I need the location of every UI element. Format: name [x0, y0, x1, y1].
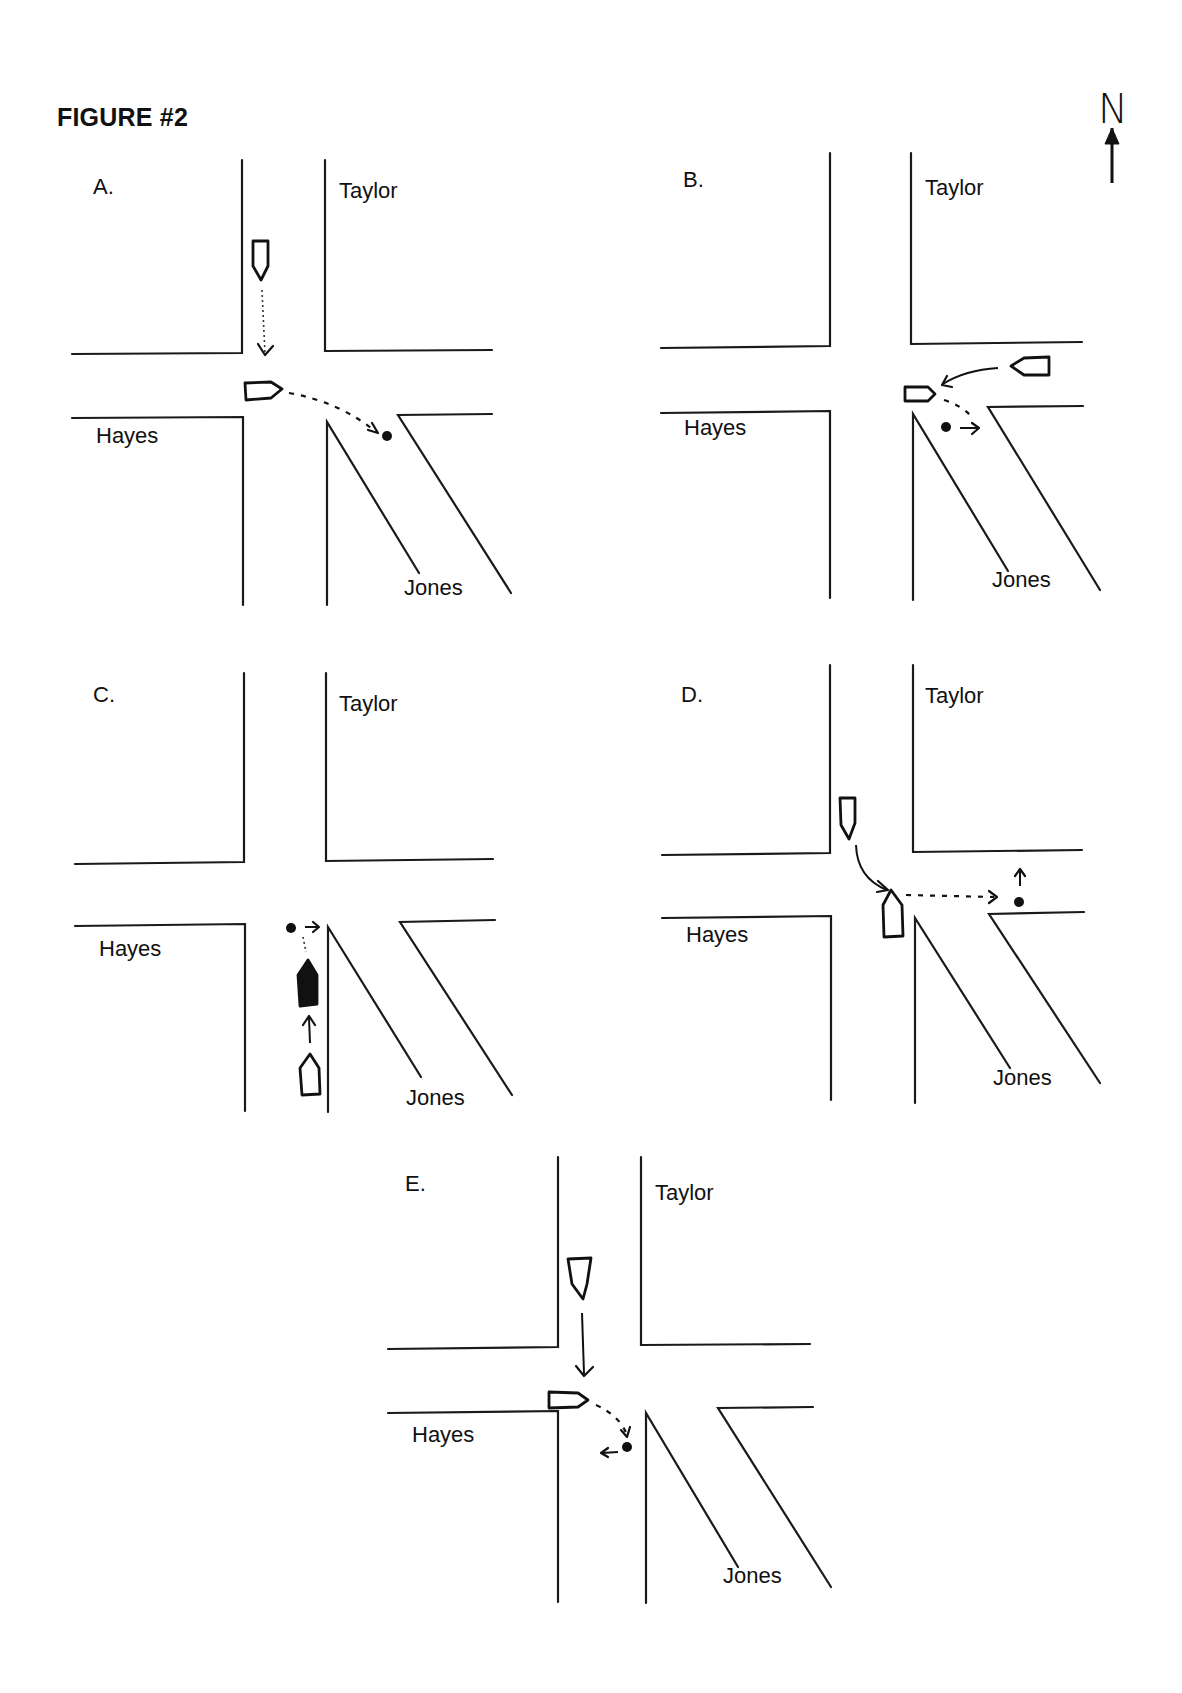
street-label-jones: Jones [404, 575, 463, 600]
vehicle-eastbound-icon [245, 382, 282, 400]
vehicle-eastbound-icon [549, 1392, 588, 1408]
vehicle-northbound-icon [883, 890, 903, 937]
panel-label: D. [681, 682, 703, 707]
panel-c: C.TaylorHayesJones [75, 673, 512, 1112]
pedestrian-dot-icon [941, 422, 951, 432]
street-label-taylor: Taylor [339, 178, 398, 203]
street-label-jones: Jones [406, 1085, 465, 1110]
street-label-jones: Jones [993, 1065, 1052, 1090]
vehicle-westbound-icon [1011, 357, 1049, 375]
panel-label: A. [93, 174, 114, 199]
street-label-hayes: Hayes [99, 936, 161, 961]
movement-path [856, 845, 887, 890]
movement-path [289, 393, 376, 432]
movement-path [906, 895, 994, 897]
street-label-jones: Jones [992, 567, 1051, 592]
vehicle-northbound-filled-icon [298, 960, 317, 1006]
movement-path [262, 290, 265, 354]
movement-path [309, 1018, 310, 1043]
street-label-hayes: Hayes [686, 922, 748, 947]
north-arrow-icon [1105, 128, 1119, 183]
panel-e: E.TaylorHayesJones [388, 1157, 831, 1603]
pedestrian-dot-icon [286, 923, 296, 933]
north-label: N [1098, 86, 1128, 132]
arrowhead-icon [258, 344, 273, 355]
movement-path [582, 1313, 584, 1374]
pedestrian-dot-icon [382, 431, 392, 441]
vehicle-southbound-icon [568, 1258, 591, 1299]
vehicle-eastbound-icon [905, 387, 935, 401]
pedestrian-dot-icon [622, 1442, 632, 1452]
movement-path [944, 400, 970, 415]
movement-path [943, 368, 998, 384]
pedestrian-dot-icon [1014, 897, 1024, 907]
road-curb-line [989, 912, 1100, 1083]
panel-label: C. [93, 682, 115, 707]
street-label-jones: Jones [723, 1563, 782, 1588]
street-label-hayes: Hayes [684, 415, 746, 440]
street-label-hayes: Hayes [412, 1422, 474, 1447]
movement-path [602, 1452, 618, 1453]
panel-a: A.TaylorHayesJones [72, 160, 511, 605]
panel-label: B. [683, 167, 704, 192]
panel-b: B.TaylorHayesJones [661, 153, 1100, 600]
street-label-taylor: Taylor [925, 683, 984, 708]
vehicle-northbound-icon [300, 1054, 320, 1095]
panels-layer: A.TaylorHayesJonesB.TaylorHayesJonesC.Ta… [72, 153, 1100, 1603]
street-label-hayes: Hayes [96, 423, 158, 448]
road-curb-line [988, 406, 1100, 590]
street-label-taylor: Taylor [655, 1180, 714, 1205]
street-label-taylor: Taylor [339, 691, 398, 716]
panel-label: E. [405, 1171, 426, 1196]
figure-canvas: A.TaylorHayesJonesB.TaylorHayesJonesC.Ta… [0, 0, 1182, 1693]
figure-title: FIGURE #2 [57, 103, 188, 132]
vehicle-southbound-icon [253, 241, 268, 280]
vehicle-southbound-icon [840, 798, 855, 839]
movement-path [303, 937, 306, 952]
street-label-taylor: Taylor [925, 175, 984, 200]
panel-d: D.TaylorHayesJones [662, 665, 1100, 1103]
